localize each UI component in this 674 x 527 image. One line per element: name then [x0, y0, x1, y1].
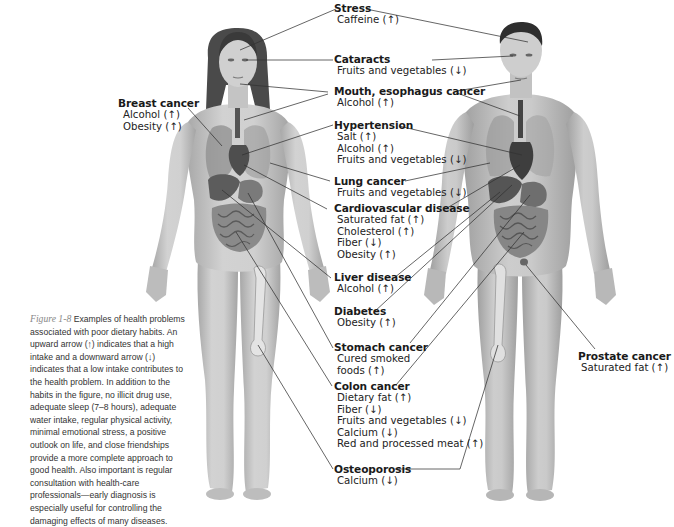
condition-name: Cardiovascular disease: [334, 203, 470, 214]
risk-factor: Alcohol (↑): [334, 143, 466, 154]
condition-name: Liver disease: [334, 272, 411, 283]
risk-factor: Alcohol (↑): [118, 109, 192, 120]
condition-name: Hypertension: [334, 120, 466, 131]
risk-factor: foods (↑): [334, 365, 428, 376]
prostate-male: [520, 259, 528, 266]
label-lung-cancer: Lung cancer Fruits and vegetables (↓): [334, 176, 466, 199]
risk-factor: Obesity (↑): [334, 317, 396, 328]
label-diabetes: Diabetes Obesity (↑): [334, 306, 396, 329]
figure-number: Figure 1-8: [30, 313, 71, 324]
condition-name: Osteoporosis: [334, 464, 411, 475]
label-cataracts: Cataracts Fruits and vegetables (↓): [334, 54, 466, 77]
risk-factor: Cholesterol (↑): [334, 226, 470, 237]
risk-factor: Salt (↑): [334, 131, 466, 142]
risk-factor: Fruits and vegetables (↓): [334, 154, 466, 165]
label-osteoporosis: Osteoporosis Calcium (↓): [334, 464, 411, 487]
condition-name: Cataracts: [334, 54, 466, 65]
risk-factor: Saturated fat (↑): [578, 362, 671, 373]
label-cardiovascular: Cardiovascular disease Saturated fat (↑)…: [334, 203, 470, 260]
stomach-female: [238, 180, 263, 203]
caption-text: Examples of health problems associated w…: [30, 313, 185, 526]
risk-factor: Red and processed meat (↑): [334, 438, 483, 449]
risk-factor: Alcohol (↑): [334, 97, 485, 108]
leader-stress-female: [240, 9, 336, 50]
condition-name: Stomach cancer: [334, 342, 428, 353]
risk-factor: Obesity (↑): [118, 121, 192, 132]
risk-factor: Alcohol (↑): [334, 283, 411, 294]
label-prostate-cancer: Prostate cancer Saturated fat (↑): [578, 351, 671, 374]
condition-name: Prostate cancer: [578, 351, 671, 362]
label-hypertension: Hypertension Salt (↑) Alcohol (↑) Fruits…: [334, 120, 466, 166]
risk-factor: Dietary fat (↑): [334, 392, 483, 403]
label-breast-cancer: Breast cancer Alcohol (↑) Obesity (↑): [118, 98, 192, 132]
condition-name: Diabetes: [334, 306, 396, 317]
risk-factor: Caffeine (↑): [334, 14, 399, 25]
risk-factor: Obesity (↑): [334, 249, 470, 260]
risk-factor: Fiber (↓): [334, 237, 470, 248]
figure-caption: Figure 1-8 Examples of health problems a…: [30, 313, 186, 527]
stomach-male: [520, 182, 547, 207]
condition-name: Mouth, esophagus cancer: [334, 86, 485, 97]
label-stress: Stress Caffeine (↑): [334, 3, 399, 26]
risk-factor: Fruits and vegetables (↓): [334, 187, 466, 198]
risk-factor: Fruits and vegetables (↓): [334, 415, 483, 426]
risk-factor: Fruits and vegetables (↓): [334, 65, 466, 76]
risk-factor: Cured smoked: [334, 353, 428, 364]
condition-name: Stress: [334, 3, 399, 14]
condition-name: Colon cancer: [334, 381, 483, 392]
condition-name: Lung cancer: [334, 176, 466, 187]
label-stomach-cancer: Stomach cancer Cured smoked foods (↑): [334, 342, 428, 376]
risk-factor: Calcium (↓): [334, 427, 483, 438]
label-liver-disease: Liver disease Alcohol (↑): [334, 272, 411, 295]
label-mouth-esophagus: Mouth, esophagus cancer Alcohol (↑): [334, 86, 485, 109]
condition-name: Breast cancer: [118, 98, 192, 109]
risk-factor: Fiber (↓): [334, 404, 483, 415]
lungs-female: [206, 125, 232, 178]
risk-factor: Saturated fat (↑): [334, 214, 470, 225]
risk-factor: Calcium (↓): [334, 475, 411, 486]
label-colon-cancer: Colon cancer Dietary fat (↑) Fiber (↓) F…: [334, 381, 483, 449]
